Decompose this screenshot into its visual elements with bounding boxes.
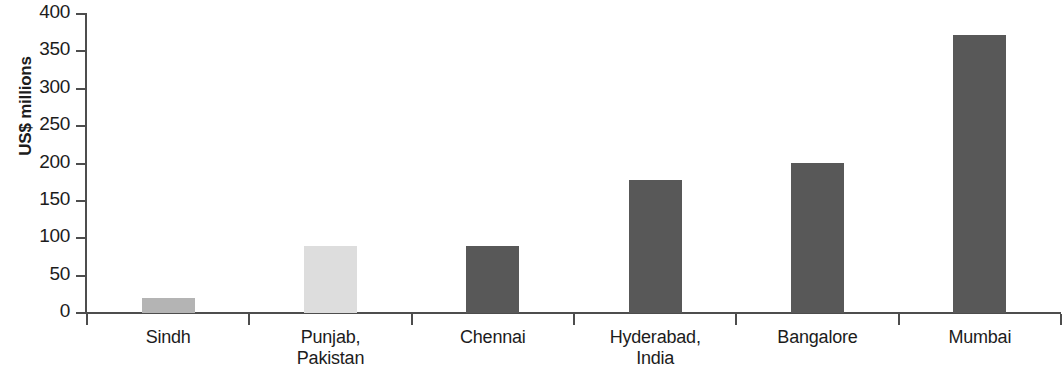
- y-axis-tick-label: 300: [24, 76, 70, 98]
- bar: [629, 180, 682, 313]
- bar-chart: US$ millions 050100150200250300350400 Si…: [0, 0, 1064, 374]
- x-axis-label-line: Bangalore: [736, 327, 898, 348]
- y-axis-tick: [76, 237, 86, 239]
- x-axis-tick: [411, 314, 413, 325]
- x-axis-label: Chennai: [412, 327, 574, 348]
- y-axis-tick-label: 350: [24, 38, 70, 60]
- x-axis-tick: [735, 314, 737, 325]
- x-axis-label-line: Hyderabad,: [574, 327, 736, 348]
- x-axis-label: Sindh: [87, 327, 249, 348]
- x-axis-tick: [898, 314, 900, 325]
- y-axis-tick: [76, 200, 86, 202]
- y-axis-tick-label: 250: [24, 113, 70, 135]
- y-axis-tick-label: 200: [24, 151, 70, 173]
- y-axis-tick-label: 150: [24, 188, 70, 210]
- x-axis-label-line: Mumbai: [899, 327, 1061, 348]
- x-axis-label: Bangalore: [736, 327, 898, 348]
- y-axis-tick: [76, 312, 86, 314]
- x-axis-tick: [248, 314, 250, 325]
- y-axis-tick: [76, 275, 86, 277]
- bar: [466, 246, 519, 313]
- y-axis-tick: [76, 88, 86, 90]
- x-axis-tick: [573, 314, 575, 325]
- x-axis-label-line: Chennai: [412, 327, 574, 348]
- y-axis-tick-label: 50: [24, 263, 70, 285]
- bar: [791, 163, 844, 313]
- x-axis-label-line: Punjab,: [249, 327, 411, 348]
- y-axis-tick: [76, 13, 86, 15]
- x-axis-label: Mumbai: [899, 327, 1061, 348]
- x-axis-tick: [1060, 314, 1062, 325]
- x-axis-tick: [86, 314, 88, 325]
- x-axis-label: Punjab,Pakistan: [249, 327, 411, 369]
- y-axis-tick-label: 400: [24, 1, 70, 23]
- x-axis-label: Hyderabad,India: [574, 327, 736, 369]
- x-axis-label-line: Pakistan: [249, 348, 411, 369]
- y-axis-tick: [76, 125, 86, 127]
- bar: [304, 246, 357, 313]
- y-axis-tick-label: 0: [24, 300, 70, 322]
- x-axis-label-line: Sindh: [87, 327, 249, 348]
- y-axis-tick: [76, 50, 86, 52]
- bar: [142, 298, 195, 313]
- y-axis-tick-label: 100: [24, 225, 70, 247]
- y-axis-tick: [76, 163, 86, 165]
- x-axis-label-line: India: [574, 348, 736, 369]
- bar: [953, 35, 1006, 313]
